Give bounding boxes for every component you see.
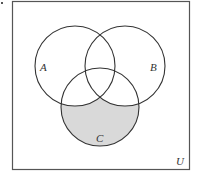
venn-diagram: A B C U [0, 0, 200, 176]
set-a-label: A [39, 61, 47, 73]
corner-mark [1, 2, 3, 4]
set-b-label: B [150, 61, 157, 73]
set-c-label: C [96, 132, 104, 144]
universe-label: U [176, 155, 185, 167]
